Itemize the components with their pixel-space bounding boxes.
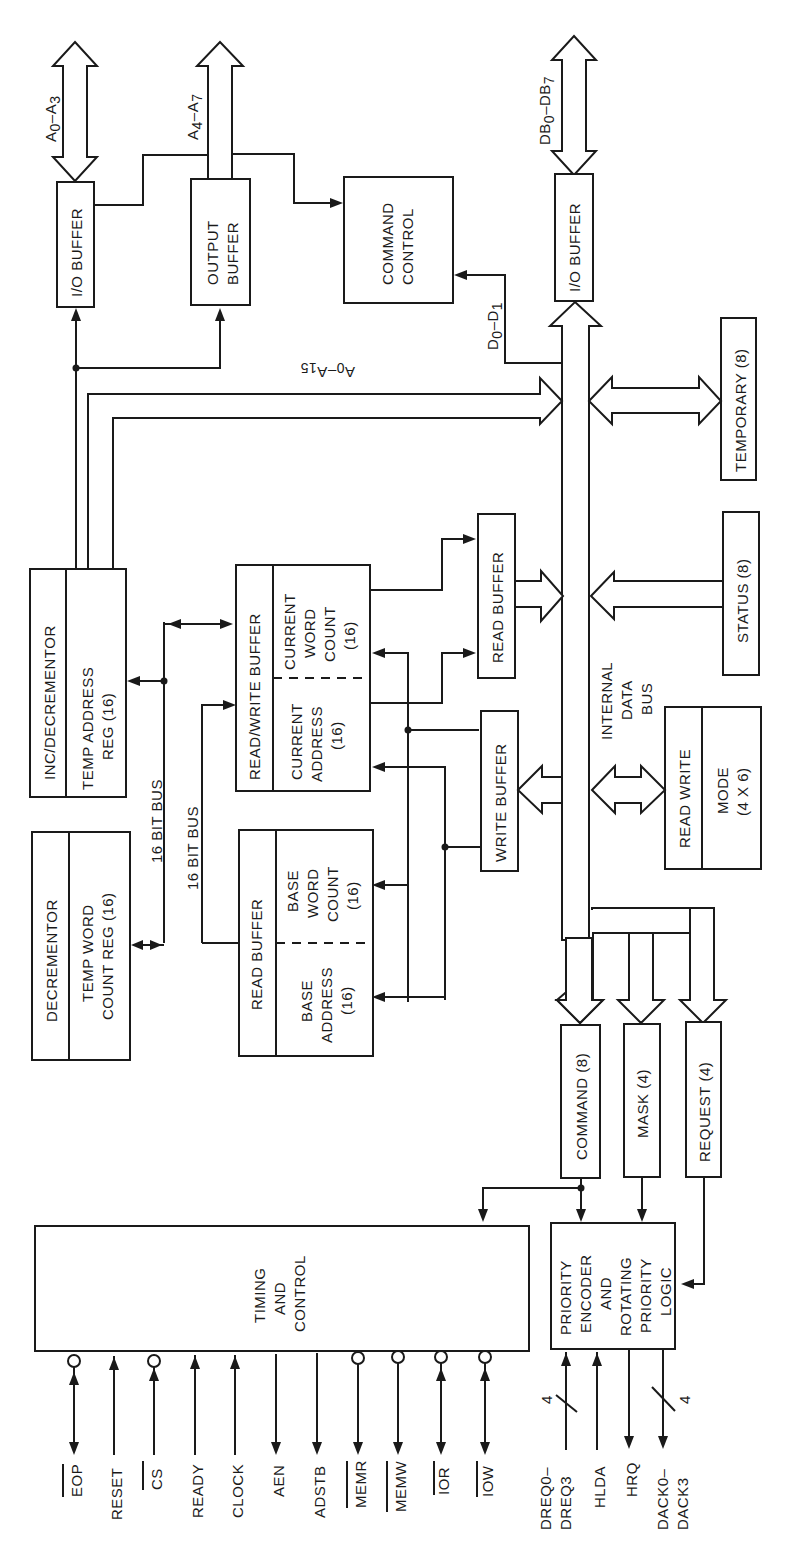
pin-clock-label: CLOCK [229,1464,246,1518]
a0-a3-label: A0–A3 [42,96,63,142]
timing-control-block: TIMING AND CONTROL [35,1226,529,1351]
mask-register-label: MASK (4) [634,1069,651,1138]
current-word-count-label-2: WORD [301,609,318,659]
pin-aen-label: AEN [270,1465,287,1497]
internal-data-bus-label-1: INTERNAL [598,662,615,740]
pin-dreq-label-1: DREQ0– [537,1467,554,1530]
base-address-label-3: (16) [338,986,355,1015]
priority-logic-label-6: LOGIC [657,1267,674,1316]
output-buffer-label-1: OUTPUT [204,220,221,285]
request-register-label: REQUEST (4) [696,1062,713,1162]
write-buffer-label: WRITE BUFFER [492,744,509,863]
timing-control-label-3: CONTROL [291,1255,308,1332]
pin-ready: READY [189,1355,206,1518]
output-buffer-label-2: BUFFER [224,222,241,285]
mode-register-block: READ WRITE MODE (4 X 6) [665,707,761,869]
decrementor-label: DECREMENTOR [43,899,60,1022]
priority-logic-label-3: AND [597,1277,614,1310]
timing-control-label-1: TIMING [251,1268,268,1324]
status-register-block: STATUS (8) [723,512,759,675]
base-address-label-2: ADDRESS [318,967,335,1043]
pin-cs-label: CS [148,1468,165,1490]
pin-adstb-label: ADSTB [311,1465,328,1518]
base-address-label-1: BASE [298,980,315,1022]
base-word-count-label-4: (16) [344,881,361,910]
dma-block-diagram: A0–A3 I/O BUFFER A4–A7 OUTPUT BUFFER COM… [0,0,789,1558]
pin-reset: RESET [108,1356,125,1520]
bus-16bit-label-b: 16 BIT BUS [184,806,201,890]
current-word-count-label-1: CURRENT [281,593,298,670]
timing-control-label-2: AND [271,1282,288,1315]
mode-label-2: (4 X 6) [734,767,751,816]
command-register-block: COMMAND (8) [561,1025,600,1178]
temporary-label: TEMPORARY (8) [732,349,749,472]
pin-adstb: ADSTB [311,1353,328,1518]
read-write-buffer-block: READ/WRITE BUFFER CURRENT WORD COUNT (16… [236,565,370,791]
a0-a3-bus-arrow [53,42,97,181]
pin-dreq-label-2: DREQ3 [557,1476,574,1530]
read-buffer-block: READ BUFFER [478,514,515,678]
pin-hlda-label: HLDA [591,1466,608,1508]
output-buffer-block: OUTPUT BUFFER [191,179,250,305]
read-buffer-base-label: READ BUFFER [248,899,265,1010]
a4-a7-bus-arrow [197,42,243,180]
temp-address-reg-label-2: REG (16) [99,693,116,760]
write-buffer-block: WRITE BUFFER [481,711,518,871]
status-label: STATUS (8) [734,559,751,643]
current-address-label-2: ADDRESS [308,706,325,782]
io-buffer-address-label: I/O BUFFER [68,208,85,297]
priority-logic-label-5: PRIORITY [637,1258,654,1333]
db0-db7-label: DB0–DB7 [536,76,557,145]
d0-d1-label: D0–D1 [484,302,505,350]
db0-db7-bus-arrow [552,36,596,175]
command-register-label: COMMAND (8) [573,1053,590,1160]
pin-memr-label: MEMR [352,1460,369,1508]
a0-a15-label: A0–A15 [300,360,355,381]
inc-decrementor-label: INC/DECREMENTOR [41,625,58,780]
current-address-label-1: CURRENT [288,703,305,780]
io-buffer-data-label: I/O BUFFER [566,203,583,292]
pin-aen: AEN [270,1354,287,1497]
pin-reset-label: RESET [108,1467,125,1520]
current-word-count-label-4: (16) [341,621,358,650]
mode-label-1: MODE [714,767,731,814]
temp-word-count-reg-label-2: COUNT REG (16) [99,892,116,1020]
base-word-count-label-3: COUNT [324,866,341,922]
mask-register-block: MASK (4) [624,1024,660,1177]
pin-memr: MEMR [347,1352,369,1508]
pin-memw: MEMW [387,1351,409,1512]
pin-ior: IOR [434,1351,452,1495]
pin-cs: CS [143,1355,165,1490]
base-register-block: READ BUFFER BASE WORD COUNT (16) BASE AD… [239,830,373,1056]
base-word-count-label-2: WORD [304,869,321,919]
io-buffer-data-block: I/O BUFFER [555,174,593,301]
pin-iow: IOW [477,1351,496,1497]
a4-a7-label: A4–A7 [184,94,205,140]
temp-address-reg-label-1: TEMP ADDRESS [79,667,96,790]
internal-data-bus-label-3: BUS [638,683,655,715]
pin-dack-width: 4 [676,1395,693,1404]
pin-hrq-label: HRQ [623,1462,640,1497]
temporary-register-block: TEMPORARY (8) [721,318,756,480]
io-buffer-address-block: I/O BUFFER [57,182,94,307]
command-control-label-1: COMMAND [379,202,396,285]
pin-ior-label: IOR [435,1467,452,1495]
pin-eop: EOP [63,1355,85,1497]
pin-ready-label: READY [189,1464,206,1518]
pin-hlda: HLDA [591,1352,608,1508]
temp-word-count-reg-label-1: TEMP WORD [79,904,96,1002]
pin-memw-label: MEMW [392,1461,409,1512]
pin-hrq: HRQ [623,1350,640,1497]
priority-logic-block: PRIORITY ENCODER AND ROTATING PRIORITY L… [551,1223,675,1349]
priority-logic-label-4: ROTATING [617,1257,634,1336]
pin-clock: CLOCK [229,1355,246,1518]
bus-16bit-label-a: 16 BIT BUS [148,779,165,863]
current-address-label-3: (16) [328,721,345,750]
base-word-count-label-1: BASE [284,870,301,912]
decrementor-block: DECREMENTOR TEMP WORD COUNT REG (16) [32,832,130,1060]
request-register-block: REQUEST (4) [686,1022,721,1177]
current-word-count-label-3: COUNT [321,606,338,662]
priority-logic-label-2: ENCODER [577,1254,594,1333]
read-buffer-label: READ BUFFER [489,552,506,663]
priority-logic-label-1: PRIORITY [557,1260,574,1335]
